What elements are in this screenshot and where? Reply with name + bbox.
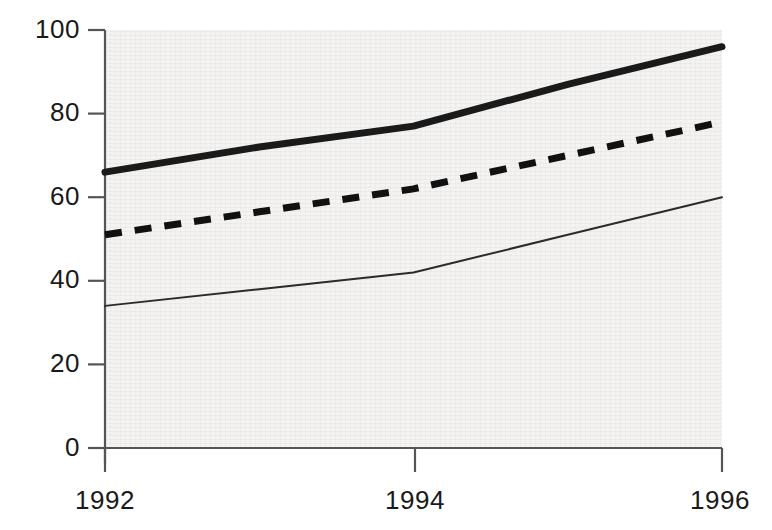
y-axis-ticks <box>88 30 105 448</box>
y-tick-label-20: 20 <box>10 348 80 379</box>
x-tick-label-1992: 1992 <box>45 485 165 516</box>
x-tick-label-1996: 1996 <box>660 485 772 516</box>
y-tick-label-0: 0 <box>10 432 80 463</box>
series-line-thick-solid <box>105 47 722 172</box>
series-line-dashed <box>105 122 722 235</box>
chart-canvas <box>0 0 772 530</box>
line-chart: 100 80 60 40 20 0 1992 1994 1996 <box>0 0 772 530</box>
y-tick-label-100: 100 <box>10 14 80 45</box>
y-tick-label-60: 60 <box>10 181 80 212</box>
x-tick-label-1994: 1994 <box>355 485 475 516</box>
y-tick-label-40: 40 <box>10 264 80 295</box>
series-line-thin-solid <box>105 197 722 306</box>
y-tick-label-80: 80 <box>10 97 80 128</box>
x-axis-ticks <box>105 448 722 472</box>
